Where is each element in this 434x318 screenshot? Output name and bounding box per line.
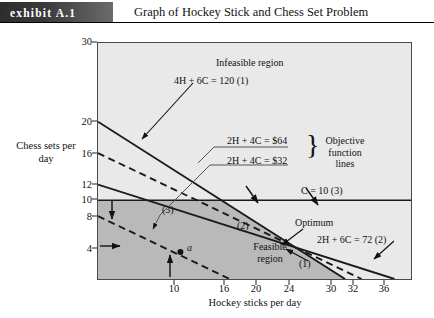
exhibit-figure: exhibit A.1 Graph of Hockey Stick and Ch… [0,0,434,318]
axis-ticks-svg [0,0,434,318]
